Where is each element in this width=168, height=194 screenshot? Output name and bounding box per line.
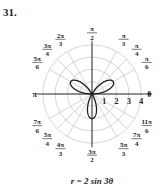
- angle-label: 0: [147, 90, 151, 99]
- angle-label-den: 6: [36, 63, 40, 71]
- angle-label-den: 4: [46, 140, 50, 148]
- angle-label-den: 6: [145, 63, 149, 71]
- angle-label-num: 7π: [133, 131, 141, 139]
- angle-label-num: 5π: [44, 131, 52, 139]
- angle-label-num: 3π: [44, 42, 52, 50]
- angle-label-den: 3: [59, 150, 63, 158]
- radial-tick-label: 2: [115, 97, 119, 106]
- angle-label-num: 7π: [34, 118, 42, 126]
- radial-tick-label: 1: [102, 97, 106, 106]
- angle-label: π: [33, 90, 38, 99]
- angle-label-den: 3: [122, 40, 126, 48]
- angle-label-den: 2: [90, 34, 94, 42]
- polar-plot: 12340π6π4π3π22π33π45π6π7π65π44π33π25π37π…: [0, 0, 168, 194]
- angle-label-den: 2: [90, 156, 94, 164]
- angle-label-num: 3π: [88, 148, 96, 156]
- radial-tick-label: 3: [127, 97, 131, 106]
- angle-label-num: π: [122, 32, 126, 40]
- angle-label-num: π: [135, 42, 139, 50]
- angle-label-den: 4: [46, 50, 50, 58]
- angle-label-num: 5π: [34, 55, 42, 63]
- angle-label-num: 2π: [57, 32, 65, 40]
- angle-label-num: π: [90, 25, 94, 33]
- angle-label-den: 4: [135, 50, 139, 58]
- angle-label-den: 6: [36, 127, 40, 135]
- angle-label-den: 4: [135, 140, 139, 148]
- angle-label-den: 6: [145, 127, 149, 135]
- angle-label-num: 11π: [142, 118, 153, 126]
- caption: r = 2 sin 3θ: [0, 176, 168, 186]
- angle-label-den: 3: [59, 40, 63, 48]
- angle-label-num: π: [145, 55, 149, 63]
- angle-label-num: 5π: [120, 141, 128, 149]
- angle-label-den: 3: [122, 150, 126, 158]
- pole-dot: [90, 92, 94, 96]
- angle-label-num: 4π: [57, 141, 65, 149]
- radial-tick-label: 4: [139, 97, 143, 106]
